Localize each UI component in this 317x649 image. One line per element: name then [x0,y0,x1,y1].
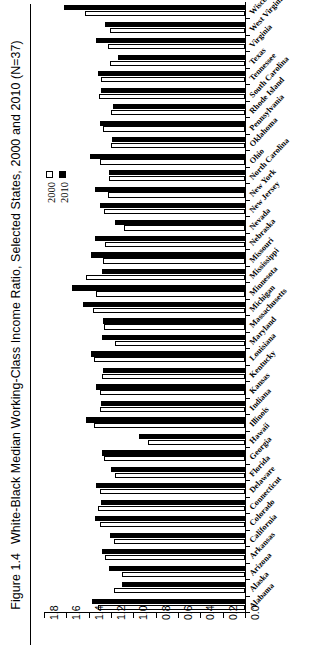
bar-segment-2000 [109,176,245,181]
y-axis-tick [246,134,250,135]
bar-segment-2000 [93,308,245,313]
bar-segment-2000 [86,275,245,280]
y-axis-tick [246,431,250,432]
bar-2010 [44,533,245,538]
x-axis-tick [223,613,224,618]
bar-2000 [44,110,245,115]
bar-2010 [44,335,245,340]
legend-label-2010: 2010 [59,182,70,203]
bar-2010 [44,121,245,126]
y-axis-tick [246,84,250,85]
bar-segment-2000 [100,407,245,412]
bar-2000 [44,143,245,148]
figure-caption-block: Figure 1.4White-Black Median Working-Cla… [0,0,32,649]
bar-segment-2000 [110,61,245,66]
bar-2010 [44,22,245,27]
bar-segment-2010 [113,104,245,109]
y-axis-tick [246,282,250,283]
x-axis-tick-label: 1.6 [70,605,82,620]
y-axis-tick [246,332,250,333]
legend-swatch-2010 [59,171,66,178]
bar-2010 [44,384,245,389]
bar-2000 [44,44,245,49]
y-axis-tick [246,381,250,382]
figure-caption: Figure 1.4White-Black Median Working-Cla… [9,40,23,610]
bar-segment-2000 [115,473,245,478]
bar-segment-2010 [91,252,245,257]
bar-segment-2000 [108,44,245,49]
bar-segment-2010 [72,285,245,290]
bar-segment-2010 [105,22,245,27]
x-axis-tick [178,613,179,618]
y-axis-tick [246,150,250,151]
bar-2000 [44,94,245,99]
bar-2000 [44,390,245,395]
bar-2000 [44,258,245,263]
bar-segment-2010 [86,417,245,422]
bar-2010 [44,38,245,43]
bar-2010 [44,154,245,159]
bar-2000 [44,126,245,131]
y-axis-tick [246,563,250,564]
bar-2010 [44,368,245,373]
bar-segment-2010 [98,71,245,76]
x-axis-tick [200,613,201,618]
bar-segment-2000 [100,522,245,527]
y-axis-tick [246,464,250,465]
bar-2000 [44,506,245,511]
bar-segment-2000 [148,440,245,445]
x-axis-tick-label: 0.4 [204,605,216,620]
bar-2010 [44,5,245,10]
bar-segment-2010 [91,351,245,356]
y-axis-tick [246,497,250,498]
bar-segment-2000 [111,143,245,148]
y-axis-tick [246,216,250,217]
bar-2010 [44,549,245,554]
bar-2010 [44,104,245,109]
bar-2000 [44,522,245,527]
y-axis-line [245,2,246,613]
y-axis-tick [246,249,250,250]
bar-segment-2010 [101,401,245,406]
legend-label-2000: 2000 [46,182,57,203]
bar-2010 [44,582,245,587]
y-axis-tick [246,398,250,399]
y-axis-tick [246,200,250,201]
bar-segment-2000 [104,324,245,329]
bar-segment-2010 [102,335,245,340]
bar-segment-2010 [100,203,245,208]
bar-segment-2010 [111,467,245,472]
bar-2010 [44,71,245,76]
bar-2000 [44,440,245,445]
bar-2000 [44,374,245,379]
bar-2010 [44,55,245,60]
bar-segment-2010 [95,516,245,521]
bar-2010 [44,252,245,257]
bar-segment-2010 [102,450,245,455]
bar-2010 [44,351,245,356]
bar-segment-2010 [109,170,245,175]
bar-2010 [44,500,245,505]
bar-2000 [44,225,245,230]
bar-2000 [44,324,245,329]
bar-2000 [44,539,245,544]
legend-swatch-2000 [46,171,53,178]
x-axis-tick-label: 1.2 [115,605,127,620]
bar-2000 [44,275,245,280]
bar-segment-2010 [96,384,245,389]
bar-2010 [44,318,245,323]
bar-2010 [44,285,245,290]
bar-2000 [44,242,245,247]
bar-segment-2000 [122,572,245,577]
y-axis-tick [246,480,250,481]
bar-2000 [44,489,245,494]
figure-caption-text: White-Black Median Working-Class Income … [9,40,23,544]
bar-2000 [44,77,245,82]
y-axis-tick [246,365,250,366]
bar-segment-2000 [110,28,245,33]
bar-2000 [44,159,245,164]
bar-2000 [44,423,245,428]
bar-segment-2000 [124,225,245,230]
bar-segment-2010 [100,121,245,126]
figure-number: Figure 1.4 [9,552,23,609]
